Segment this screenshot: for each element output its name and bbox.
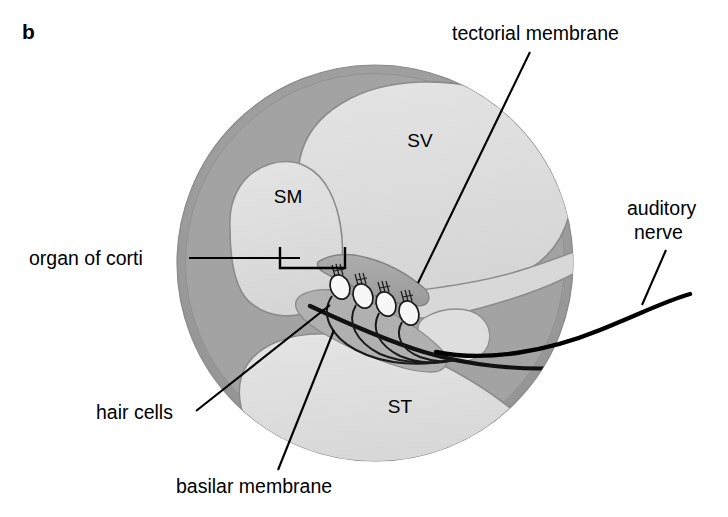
callout-label-basilar-membrane: basilar membrane bbox=[176, 475, 332, 497]
callout-label-auditory-nerve-line1: auditory bbox=[627, 197, 697, 219]
callout-label-tectorial-membrane: tectorial membrane bbox=[452, 22, 619, 44]
figure-container: b SV SM ST tectorial membrane organ of c… bbox=[0, 0, 728, 517]
leader-line-auditory-nerve bbox=[642, 250, 666, 305]
chamber-label-st: ST bbox=[388, 396, 413, 417]
callout-label-auditory-nerve-line2: nerve bbox=[634, 221, 683, 243]
chamber-label-sv: SV bbox=[407, 130, 433, 151]
callout-label-hair-cells: hair cells bbox=[96, 401, 173, 423]
callout-auditory-nerve: auditory nerve bbox=[627, 197, 697, 305]
cochlea-cross-section-diagram: b SV SM ST tectorial membrane organ of c… bbox=[0, 0, 728, 517]
chamber-label-sm: SM bbox=[274, 186, 303, 207]
callout-label-organ-of-corti: organ of corti bbox=[29, 247, 143, 269]
panel-letter-b: b bbox=[22, 20, 35, 43]
